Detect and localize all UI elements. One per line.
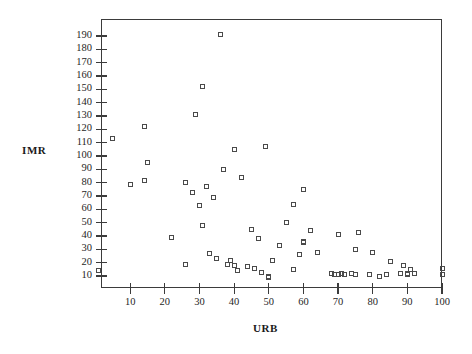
data-point — [145, 160, 150, 165]
x-tick-label: 30 — [184, 296, 214, 307]
y-tick-label: 50 — [66, 216, 92, 227]
y-tick-mark-inner — [102, 89, 107, 90]
x-tick-mark-inner — [441, 283, 442, 288]
data-point — [239, 175, 244, 180]
data-point — [342, 272, 347, 277]
y-tick-mark-inner — [102, 142, 107, 143]
x-tick-label: 80 — [358, 296, 388, 307]
y-tick-label: 30 — [66, 242, 92, 253]
data-point — [291, 267, 296, 272]
data-point — [207, 251, 212, 256]
y-tick-label: 40 — [66, 229, 92, 240]
data-point — [336, 232, 341, 237]
x-tick-mark — [441, 288, 442, 294]
data-point — [297, 252, 302, 257]
data-point — [308, 228, 313, 233]
data-point — [384, 272, 389, 277]
data-point — [197, 203, 202, 208]
data-point — [398, 271, 403, 276]
y-tick-label: 10 — [66, 269, 92, 280]
data-point — [284, 220, 289, 225]
x-tick-label: 50 — [254, 296, 284, 307]
y-tick-label: 80 — [66, 176, 92, 187]
data-point — [110, 136, 115, 141]
data-point — [128, 182, 133, 187]
data-point — [353, 272, 358, 277]
x-tick-label: 20 — [150, 296, 180, 307]
data-point — [249, 227, 254, 232]
x-tick-label: 60 — [288, 296, 318, 307]
data-point — [169, 235, 174, 240]
x-tick-mark — [372, 288, 373, 294]
y-tick-label: 70 — [66, 189, 92, 200]
data-point — [245, 264, 250, 269]
data-point — [353, 247, 358, 252]
x-tick-mark-inner — [303, 283, 304, 288]
data-point — [401, 263, 406, 268]
y-tick-mark-inner — [102, 182, 107, 183]
x-tick-mark — [199, 288, 200, 294]
y-tick-label: 190 — [66, 29, 92, 40]
data-point — [301, 240, 306, 245]
data-point — [183, 262, 188, 267]
x-tick-mark-inner — [372, 283, 373, 288]
y-tick-mark-inner — [102, 62, 107, 63]
y-tick-mark-inner — [102, 209, 107, 210]
data-point — [232, 147, 237, 152]
x-tick-label: 90 — [392, 296, 422, 307]
data-point — [377, 274, 382, 279]
y-tick-label: 100 — [66, 149, 92, 160]
y-tick-label: 170 — [66, 56, 92, 67]
x-axis-title: URB — [253, 322, 278, 334]
y-tick-label: 110 — [66, 136, 92, 147]
data-point — [228, 258, 233, 263]
y-tick-mark-inner — [102, 35, 107, 36]
x-tick-mark-inner — [268, 283, 269, 288]
y-tick-mark-inner — [102, 195, 107, 196]
y-tick-label: 150 — [66, 82, 92, 93]
y-tick-label: 140 — [66, 96, 92, 107]
data-point — [218, 32, 223, 37]
data-point — [96, 268, 101, 273]
data-point — [270, 258, 275, 263]
y-tick-label: 90 — [66, 162, 92, 173]
x-tick-mark — [407, 288, 408, 294]
x-tick-mark — [337, 288, 338, 294]
y-tick-label: 120 — [66, 122, 92, 133]
y-tick-mark-inner — [102, 155, 107, 156]
y-tick-label: 20 — [66, 256, 92, 267]
y-tick-mark-inner — [102, 235, 107, 236]
x-tick-mark-inner — [337, 283, 338, 288]
data-point — [235, 268, 240, 273]
data-point — [370, 250, 375, 255]
x-tick-mark-inner — [407, 283, 408, 288]
data-point — [263, 144, 268, 149]
data-point — [193, 112, 198, 117]
data-point — [190, 190, 195, 195]
data-point — [183, 180, 188, 185]
scatter-plot-figure: IMR URB 10203040506070809010011012013014… — [0, 0, 472, 354]
x-tick-mark — [303, 288, 304, 294]
y-tick-mark-inner — [102, 169, 107, 170]
data-point — [252, 266, 257, 271]
x-tick-mark — [164, 288, 165, 294]
x-tick-label: 40 — [219, 296, 249, 307]
y-tick-mark-inner — [102, 275, 107, 276]
x-tick-mark-inner — [199, 283, 200, 288]
data-point — [200, 223, 205, 228]
x-tick-mark — [130, 288, 131, 294]
y-tick-mark-inner — [102, 102, 107, 103]
data-point — [214, 256, 219, 261]
data-point — [315, 250, 320, 255]
x-tick-label: 70 — [323, 296, 353, 307]
data-point — [356, 230, 361, 235]
data-point — [232, 263, 237, 268]
data-point — [259, 270, 264, 275]
data-point — [440, 272, 445, 277]
x-tick-mark — [234, 288, 235, 294]
y-tick-mark-inner — [102, 49, 107, 50]
data-point — [367, 272, 372, 277]
plot-frame — [101, 19, 442, 288]
y-tick-label: 130 — [66, 109, 92, 120]
y-tick-mark-inner — [102, 75, 107, 76]
